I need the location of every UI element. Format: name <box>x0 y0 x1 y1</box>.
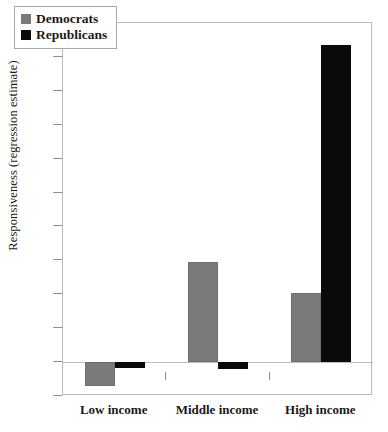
chart-legend: Democrats Republicans <box>14 6 117 49</box>
y-tick-mark <box>53 56 62 57</box>
x-axis-label: High income <box>285 402 355 418</box>
y-tick-mark <box>53 225 62 226</box>
y-axis-title: Responsiveness (regression estimate) <box>6 6 21 306</box>
legend-swatch-republicans-icon <box>21 30 31 40</box>
x-tick-mark <box>269 372 270 380</box>
legend-item-democrats: Democrats <box>21 11 107 27</box>
bar-democrats-middle-income <box>188 262 218 362</box>
y-tick-mark <box>53 90 62 91</box>
legend-label-democrats: Democrats <box>36 11 98 27</box>
bar-chart-figure: Responsiveness (regression estimate) −20… <box>0 0 388 432</box>
y-tick-mark <box>53 293 62 294</box>
bar-republicans-middle-income <box>218 362 248 369</box>
bar-republicans-high-income <box>321 45 351 362</box>
y-tick-mark <box>53 327 62 328</box>
plot-area <box>62 22 372 395</box>
y-tick-mark <box>53 259 62 260</box>
x-tick-mark <box>165 372 166 380</box>
legend-swatch-democrats-icon <box>21 14 31 24</box>
x-axis-label: Low income <box>80 402 148 418</box>
y-tick-mark <box>53 361 62 362</box>
legend-label-republicans: Republicans <box>36 27 107 43</box>
y-tick-mark <box>53 395 62 396</box>
y-tick-mark <box>53 192 62 193</box>
bar-democrats-high-income <box>291 293 321 363</box>
x-axis-label: Middle income <box>176 402 259 418</box>
y-tick-mark <box>53 124 62 125</box>
legend-item-republicans: Republicans <box>21 27 107 43</box>
bar-democrats-low-income <box>85 362 115 386</box>
y-tick-mark <box>53 158 62 159</box>
bar-republicans-low-income <box>115 362 145 368</box>
